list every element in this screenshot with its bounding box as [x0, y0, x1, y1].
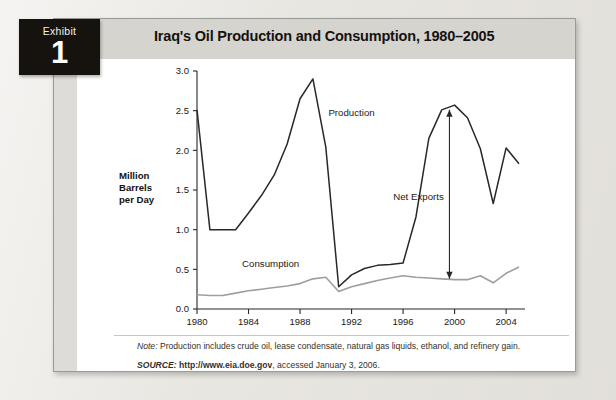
line-chart-svg: 0.00.51.01.52.02.53.0 198019841988199219… [77, 59, 575, 329]
exhibit-badge: Exhibit 1 [19, 19, 100, 75]
note-text: Production includes crude oil, lease con… [158, 341, 521, 351]
net-exports-arrow [446, 110, 452, 279]
y-tick-label: 1.5 [176, 184, 189, 195]
net-exports-arrowhead-bottom [446, 272, 452, 279]
exhibit-card: Iraq's Oil Production and Consumption, 1… [53, 18, 576, 372]
x-tick-label: 2000 [444, 316, 465, 327]
x-tick-label: 1988 [289, 316, 310, 327]
net-exports-label: Net Exports [393, 191, 444, 202]
note-line: Note: Production includes crude oil, lea… [137, 341, 567, 352]
notes-divider [114, 335, 569, 336]
chart-plot-area: 0.00.51.01.52.02.53.0 198019841988199219… [77, 59, 575, 329]
y-tick-label: 0.0 [176, 303, 189, 314]
y-axis-ticks: 0.00.51.01.52.02.53.0 [176, 65, 197, 314]
notes-block: Note: Production includes crude oil, lea… [137, 341, 567, 379]
x-axis-ticks: 1980198419881992199620002004 [186, 309, 516, 327]
source-rest: , accessed January 3, 2006. [272, 360, 380, 370]
source-line: SOURCE: http://www.eia.doe.gov, accessed… [137, 360, 567, 371]
exhibit-title-bar: Iraq's Oil Production and Consumption, 1… [77, 19, 575, 59]
y-axis-title: Million Barrels per Day [119, 170, 155, 205]
x-tick-label: 2004 [496, 316, 517, 327]
source-url: http://www.eia.doe.gov [177, 360, 273, 370]
net-exports-arrowhead-top [446, 110, 452, 117]
x-tick-label: 1996 [393, 316, 414, 327]
production-series-label: Production [328, 107, 374, 118]
note-label: Note: [137, 341, 158, 351]
source-label: SOURCE: [137, 360, 177, 370]
x-tick-label: 1984 [238, 316, 259, 327]
y-axis-title-line1: Million [119, 170, 150, 181]
y-tick-label: 0.5 [176, 264, 189, 275]
y-tick-label: 3.0 [176, 65, 189, 76]
y-axis-title-line3: per Day [119, 194, 155, 205]
y-tick-label: 2.5 [176, 105, 189, 116]
y-axis-title-line2: Barrels [119, 182, 152, 193]
x-tick-label: 1980 [186, 316, 207, 327]
y-tick-label: 1.0 [176, 224, 189, 235]
y-tick-label: 2.0 [176, 145, 189, 156]
x-tick-label: 1992 [341, 316, 362, 327]
consumption-series-label: Consumption [242, 258, 299, 269]
exhibit-badge-number: 1 [19, 36, 100, 70]
page-title: Iraq's Oil Production and Consumption, 1… [154, 28, 494, 44]
